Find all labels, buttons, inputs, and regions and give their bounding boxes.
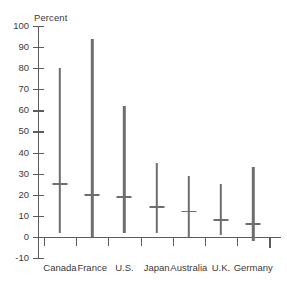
x-tick — [108, 237, 109, 246]
y-tick: 10 — [33, 216, 44, 217]
y-tick: -10 — [33, 258, 44, 259]
y-axis-line — [38, 26, 39, 258]
y-tick-label: 70 — [18, 82, 29, 95]
x-axis-category-label: Germany — [234, 262, 273, 274]
y-tick: 80 — [33, 68, 44, 69]
x-tick — [173, 237, 174, 246]
median-marker — [246, 223, 261, 225]
x-tick — [141, 237, 142, 246]
y-tick-label: 50 — [18, 124, 29, 137]
x-axis-category-label: U.S. — [115, 262, 133, 274]
x-axis-line — [38, 237, 281, 238]
median-marker — [117, 196, 132, 198]
y-tick-label: 40 — [18, 146, 29, 159]
range-bar — [220, 184, 222, 235]
y-tick-label: 80 — [18, 61, 29, 74]
x-tick — [237, 237, 238, 246]
chart-figure: Percent 1009080706050403020100-10 Canada… — [0, 0, 287, 284]
y-tick: 40 — [33, 153, 44, 154]
y-tick-label: 20 — [18, 188, 29, 201]
x-tick — [76, 237, 77, 246]
y-tick-label: 10 — [18, 209, 29, 222]
x-axis-category-label: Canada — [43, 262, 76, 274]
y-tick-label: 30 — [18, 167, 29, 180]
median-marker — [149, 206, 164, 208]
range-bar — [188, 176, 190, 237]
x-axis-category-label: France — [77, 262, 107, 274]
range-bar — [91, 39, 93, 237]
y-tick-label: -10 — [15, 251, 29, 264]
median-marker — [53, 183, 68, 185]
plot-area: 1009080706050403020100-10 CanadaFranceU.… — [38, 26, 281, 258]
y-tick: 30 — [33, 174, 44, 175]
range-bar — [59, 68, 61, 233]
y-tick-label: 0 — [24, 230, 29, 243]
y-tick-label: 90 — [18, 40, 29, 53]
x-axis-category-label: U.K. — [212, 262, 230, 274]
y-tick: 50 — [33, 131, 44, 132]
median-marker — [85, 194, 100, 196]
y-tick-label: 100 — [13, 19, 29, 32]
y-tick: 90 — [33, 47, 44, 48]
x-tick — [269, 237, 270, 248]
range-bar — [155, 163, 157, 233]
median-marker — [181, 211, 196, 213]
y-tick-label: 60 — [18, 103, 29, 116]
x-axis-category-label: Japan — [144, 262, 170, 274]
y-tick: 70 — [33, 89, 44, 90]
median-marker — [214, 219, 229, 221]
range-bar — [123, 106, 125, 233]
range-bar — [252, 167, 254, 241]
x-tick — [44, 237, 45, 246]
y-axis-title: Percent — [34, 12, 67, 23]
y-tick: 20 — [33, 195, 44, 196]
y-tick: 0 — [33, 237, 44, 238]
x-axis-category-label: Australia — [170, 262, 207, 274]
x-tick — [205, 237, 206, 246]
y-tick: 100 — [33, 26, 44, 27]
y-tick: 60 — [33, 110, 44, 111]
